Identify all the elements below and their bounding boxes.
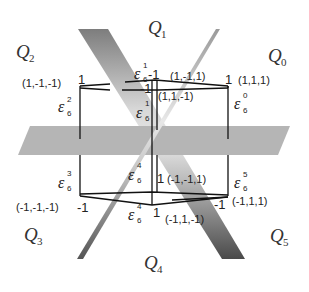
region-label-q1: Q 1: [148, 17, 167, 40]
svg-text:1: 1: [153, 205, 160, 220]
svg-text:ε: ε: [234, 95, 241, 112]
svg-text:-1: -1: [140, 81, 152, 96]
svg-text:(-1,1,-1): (-1,1,-1): [165, 213, 204, 225]
svg-text:5: 5: [243, 170, 248, 179]
svg-text:1: 1: [157, 171, 164, 186]
svg-text:4: 4: [157, 263, 163, 275]
svg-text:(1,1,-1): (1,1,-1): [158, 90, 193, 102]
svg-text:4: 4: [137, 202, 142, 211]
svg-text:0: 0: [243, 91, 248, 100]
svg-text:Q: Q: [144, 252, 158, 273]
vertex-bottom-right: ε 5 6 -1 (-1,1,1): [214, 170, 267, 212]
svg-text:ε: ε: [128, 166, 135, 183]
svg-text:6: 6: [67, 109, 72, 118]
svg-text:6: 6: [67, 184, 72, 193]
svg-text:2: 2: [67, 95, 72, 104]
svg-text:ε: ε: [136, 104, 143, 121]
svg-text:5: 5: [283, 236, 289, 248]
svg-text:1: 1: [78, 72, 85, 87]
svg-text:(-1,1,1): (-1,1,1): [232, 195, 267, 207]
svg-text:(-1,-1,-1): (-1,-1,-1): [16, 201, 59, 213]
svg-text:-1: -1: [77, 200, 89, 215]
svg-text:ε: ε: [58, 174, 65, 191]
region-label-q5: Q 5: [270, 225, 289, 248]
svg-text:1: 1: [145, 99, 150, 108]
svg-text:(1,1,1): (1,1,1): [238, 74, 270, 86]
svg-text:(1,-1,1): (1,-1,1): [170, 70, 205, 82]
svg-text:ε: ε: [58, 98, 65, 115]
svg-text:(1,-1,-1): (1,-1,-1): [22, 77, 61, 89]
svg-text:1: 1: [161, 28, 167, 40]
svg-text:6: 6: [243, 106, 248, 115]
svg-text:Q: Q: [268, 45, 282, 66]
svg-text:Q: Q: [16, 41, 30, 62]
svg-text:6: 6: [243, 184, 248, 193]
svg-text:6: 6: [137, 176, 142, 185]
svg-text:Q: Q: [270, 225, 284, 246]
region-label-q3: Q 3: [24, 224, 43, 247]
svg-text:2: 2: [29, 52, 35, 64]
region-label-q4: Q 4: [144, 252, 163, 275]
svg-text:ε: ε: [128, 206, 135, 223]
vertex-top-right: 1 (1,1,1) ε 0 6: [225, 72, 270, 115]
svg-text:-1: -1: [148, 67, 160, 82]
hexagonal-cube-diagram: Q 1 Q 0 Q 2 Q 3 Q 4 Q 5 (1,-1,-1) 1 ε 2 …: [0, 0, 309, 292]
svg-text:3: 3: [37, 235, 43, 247]
svg-text:3: 3: [67, 169, 72, 178]
svg-text:6: 6: [137, 216, 142, 225]
region-label-q2: Q 2: [16, 41, 35, 64]
svg-text:0: 0: [281, 56, 287, 68]
region-label-q0: Q 0: [268, 45, 287, 68]
svg-text:-1: -1: [214, 197, 226, 212]
svg-text:(-1,-1,1): (-1,-1,1): [167, 173, 206, 185]
horizontal-plane: [18, 126, 290, 155]
vertex-top-left: (1,-1,-1) 1 ε 2 6: [22, 72, 85, 118]
svg-text:Q: Q: [148, 17, 162, 38]
svg-text:ε: ε: [134, 65, 141, 82]
vertex-bottom-left: ε 3 6 (-1,-1,-1) -1: [16, 169, 89, 215]
svg-text:1: 1: [225, 72, 232, 87]
svg-text:6: 6: [145, 114, 150, 123]
svg-text:ε: ε: [234, 174, 241, 191]
svg-text:4: 4: [137, 161, 142, 170]
svg-text:Q: Q: [24, 224, 38, 245]
